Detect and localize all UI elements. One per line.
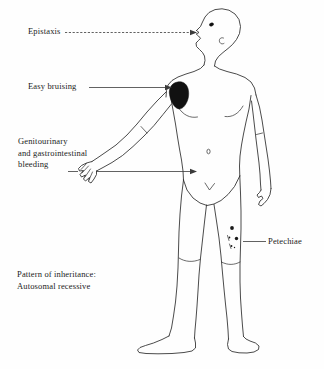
petechiae-group (228, 226, 239, 249)
right-leg-inner (214, 205, 229, 340)
label-gu-gi-line2: and gastrointestinal (18, 148, 87, 160)
crotch-outline (184, 176, 240, 206)
left-knee-crease (179, 258, 200, 261)
left-arm-outer (92, 92, 166, 162)
petechia-dot-3 (229, 236, 231, 238)
eye-mark (209, 22, 214, 26)
leaders-group (65, 30, 266, 242)
head-outline (197, 9, 241, 66)
groin-line (205, 183, 215, 190)
right-foot-outline (228, 337, 260, 354)
epistaxis-arrowhead (190, 30, 197, 35)
left-foot-outline (138, 336, 196, 354)
gu-gi-arrowhead (190, 169, 197, 174)
finger-line-3 (85, 169, 91, 177)
anatomical-figure-svg (0, 0, 324, 369)
legs-group (138, 176, 260, 354)
label-gu-gi-line3: bleeding (18, 159, 48, 171)
label-epistaxis: Epistaxis (28, 26, 61, 38)
figure-canvas: Epistaxis Easy bruising Genitourinary an… (0, 0, 324, 369)
chest-contour-right (225, 106, 243, 117)
label-easy-bruising: Easy bruising (28, 81, 76, 93)
label-inheritance-line1: Pattern of inheritance: (17, 269, 96, 281)
elbow-crease (141, 127, 147, 134)
right-leg-outer (240, 176, 244, 337)
right-arm-group (252, 95, 272, 206)
petechia-dot-2 (235, 237, 238, 240)
left-leg-inner (195, 205, 207, 338)
right-elbow-crease (257, 133, 263, 135)
left-arm-group (79, 92, 172, 183)
petechia-dot-5 (234, 247, 235, 249)
ear-mark (219, 38, 224, 44)
torso-right-outline (215, 66, 257, 95)
petechia-dot-4 (231, 245, 233, 247)
trunk-right-side (240, 96, 252, 177)
right-arm-inner (252, 101, 262, 190)
face-profile (196, 31, 205, 66)
label-inheritance-line2: Autosomal recessive (17, 281, 90, 293)
label-gu-gi-line1: Genitourinary (18, 136, 68, 148)
navel-mark (207, 149, 210, 154)
left-hand-outline (79, 162, 97, 184)
petechia-dot-1 (230, 226, 234, 230)
left-leg-outer (169, 180, 184, 336)
right-arm-outer (256, 95, 271, 189)
left-arm-inner (97, 104, 172, 171)
petechiae-scratch-1 (228, 236, 230, 241)
right-knee-crease (222, 262, 241, 264)
right-hand-outline (257, 189, 271, 207)
finger-line-4 (89, 172, 93, 180)
label-petechiae: Petechiae (268, 236, 302, 248)
head-group (196, 9, 241, 66)
